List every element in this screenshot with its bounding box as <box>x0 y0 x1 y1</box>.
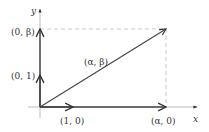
y-axis-label: y <box>30 6 37 16</box>
label-alpha-beta: (α, β) <box>84 57 108 67</box>
vector-alpha-beta <box>40 29 166 107</box>
label-e2: (0, 1) <box>11 71 35 81</box>
label-e1: (1, 0) <box>60 116 84 126</box>
label-beta-y: (0, β) <box>11 27 35 37</box>
x-axis-label: x <box>193 114 198 124</box>
label-alpha-x: (α, 0) <box>151 116 176 126</box>
vector-diagram: x y (1, 0) (0, 1) (α, 0) (0, β) (α, β) <box>0 0 209 132</box>
